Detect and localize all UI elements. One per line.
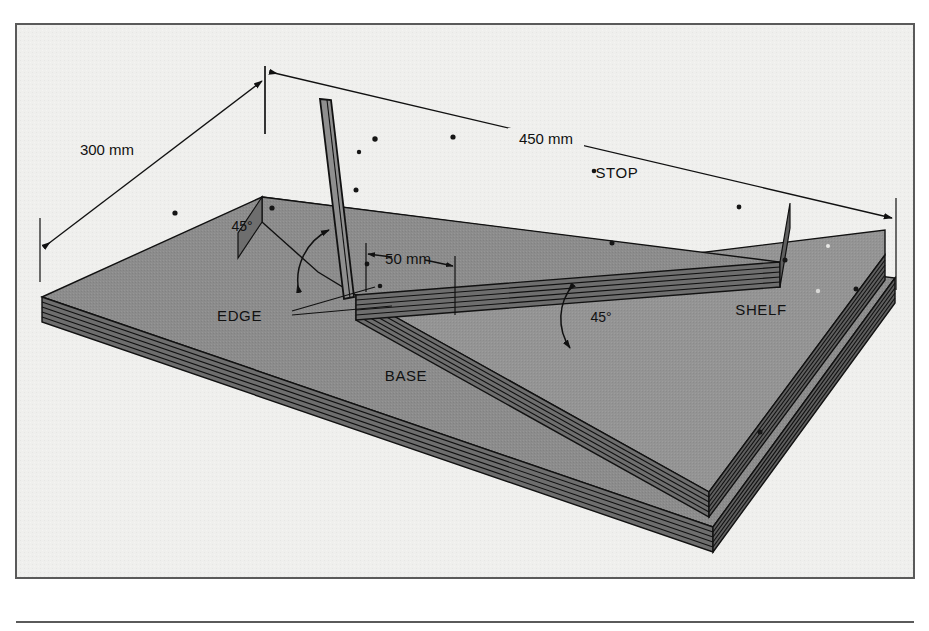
- dimension-50mm-label: 50 mm: [385, 250, 431, 267]
- screw-hole: [783, 258, 788, 263]
- dimension-450mm-label: 450 mm: [519, 130, 573, 147]
- screw-hole: [354, 188, 359, 193]
- angle-45-shelf-label: 45°: [590, 309, 611, 325]
- screw-hole: [269, 205, 274, 210]
- screw-hole: [737, 205, 742, 210]
- angle-45-stop-label: 45°: [231, 218, 252, 234]
- screw-hole: [357, 150, 361, 154]
- screw-hole: [610, 241, 615, 246]
- screw-hole: [378, 284, 383, 289]
- part-label-stop: STOP: [596, 164, 639, 181]
- screw-hole: [758, 430, 763, 435]
- part-label-edge: EDGE: [217, 307, 262, 324]
- part-label-base: BASE: [385, 367, 427, 384]
- screw-hole: [172, 210, 177, 215]
- dimension-300mm-label: 300 mm: [80, 141, 134, 158]
- screw-hole: [816, 289, 820, 293]
- screw-hole: [826, 244, 830, 248]
- screw-hole: [365, 262, 370, 267]
- screw-hole: [854, 287, 859, 292]
- part-label-shelf: SHELF: [735, 301, 786, 318]
- screw-hole: [372, 136, 377, 141]
- screw-hole: [450, 134, 455, 139]
- figure-page: 300 mm 450 mm 50 mm 45° 45°: [0, 0, 929, 631]
- technical-drawing: 300 mm 450 mm 50 mm 45° 45°: [0, 0, 929, 631]
